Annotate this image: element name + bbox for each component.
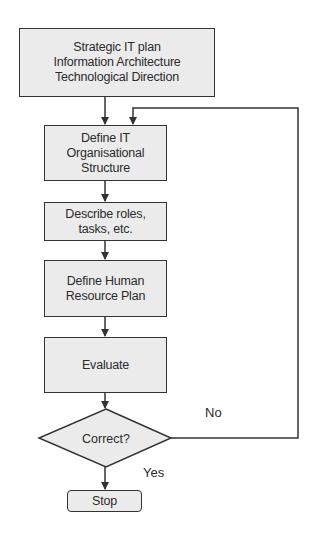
node-text-line: Evaluate bbox=[82, 358, 129, 373]
node-evaluate: Evaluate bbox=[44, 337, 167, 393]
node-text-line: Technological Direction bbox=[55, 70, 179, 85]
node-describe-roles: Describe roles, tasks, etc. bbox=[44, 202, 167, 241]
node-text-line: tasks, etc. bbox=[78, 222, 132, 237]
node-text-line: Strategic IT plan bbox=[73, 40, 160, 55]
edge-label-yes: Yes bbox=[143, 466, 164, 480]
edge-label-no: No bbox=[205, 406, 222, 420]
decision-correct-label: Correct? bbox=[66, 432, 146, 446]
node-text-line: Define IT bbox=[81, 131, 130, 146]
node-strategic-it-plan: Strategic IT plan Information Architectu… bbox=[19, 28, 215, 97]
node-text-line: Define Human bbox=[67, 274, 145, 289]
node-text-line: Resource Plan bbox=[66, 289, 145, 304]
node-text-line: Information Architecture bbox=[53, 55, 180, 70]
node-text-line: Structure bbox=[81, 161, 130, 176]
node-hr-plan: Define Human Resource Plan bbox=[44, 260, 167, 317]
node-text-line: Organisational bbox=[67, 146, 145, 161]
node-text-line: Describe roles, bbox=[65, 207, 145, 222]
node-define-it-structure: Define IT Organisational Structure bbox=[44, 125, 167, 181]
node-stop: Stop bbox=[67, 490, 142, 512]
node-text-line: Stop bbox=[92, 494, 117, 509]
flowchart-canvas: Strategic IT plan Information Architectu… bbox=[0, 0, 314, 537]
